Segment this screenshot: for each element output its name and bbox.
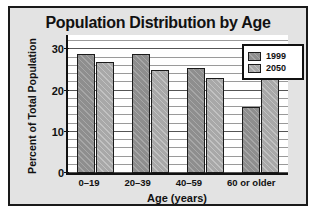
legend-swatch-2050 [248,64,261,73]
x-tick-label: 60 or older [227,177,276,188]
y-tick-mark [64,172,69,173]
y-tick-label: 0 [58,167,64,179]
bar-1999-60 or older [242,107,260,173]
legend: 19992050 [242,44,304,80]
legend-label: 2050 [266,63,286,73]
bar-group [76,54,116,173]
bar-2050-0–19 [96,62,114,173]
x-tick-label: 0–19 [78,177,99,188]
y-axis-title: Percent of Total Population [26,36,38,176]
bar-group [186,68,226,173]
legend-item-2050: 2050 [248,63,298,73]
bar-group [241,70,281,173]
legend-swatch-1999 [248,52,261,61]
y-tick-mark [64,48,69,49]
legend-item-1999: 1999 [248,51,298,61]
bar-1999-20–39 [132,54,150,173]
bar-2050-20–39 [151,70,169,173]
bar-1999-40–59 [187,68,205,173]
y-tick-label: 30 [52,43,64,55]
chart-panel: Population Distribution by Age Percent o… [8,6,308,206]
bar-2050-40–59 [206,78,224,173]
y-tick-mark [64,90,69,91]
y-tick-label: 20 [52,85,64,97]
x-axis-tick-labels: 0–1920–3940–5960 or older [66,177,288,188]
y-tick-mark [64,131,69,132]
bar-group [131,54,171,173]
bar-1999-0–19 [77,54,95,173]
legend-label: 1999 [266,51,286,61]
bar-2050-60 or older [261,70,279,173]
y-tick-label: 10 [52,126,64,138]
chart-title: Population Distribution by Age [10,14,306,32]
x-tick-label: 40–59 [176,177,202,188]
x-tick-label: 20–39 [124,177,150,188]
x-axis-title: Age (years) [66,192,288,204]
